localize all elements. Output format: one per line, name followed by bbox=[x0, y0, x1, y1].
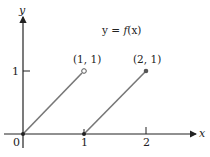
point-label-1-1: (1, 1) bbox=[73, 53, 101, 65]
function-title: y = f(x) bbox=[101, 24, 141, 36]
open-point-1-1 bbox=[82, 69, 87, 74]
chart: y x 0 1 2 1 (1, 1) (2, 1) y = f(x) bbox=[0, 0, 210, 157]
tick-x1-label: 1 bbox=[81, 136, 88, 149]
origin-label: 0 bbox=[13, 136, 20, 149]
x-axis-label: x bbox=[199, 127, 206, 140]
y-axis-label: y bbox=[18, 4, 26, 17]
segment-1 bbox=[23, 73, 82, 134]
point-label-2-1: (2, 1) bbox=[133, 53, 161, 65]
closed-point-2-1 bbox=[144, 69, 149, 74]
tick-x2-label: 2 bbox=[143, 136, 150, 149]
segment-2 bbox=[84, 71, 146, 134]
closed-point-origin bbox=[21, 132, 25, 136]
tick-y1-label: 1 bbox=[12, 65, 19, 78]
